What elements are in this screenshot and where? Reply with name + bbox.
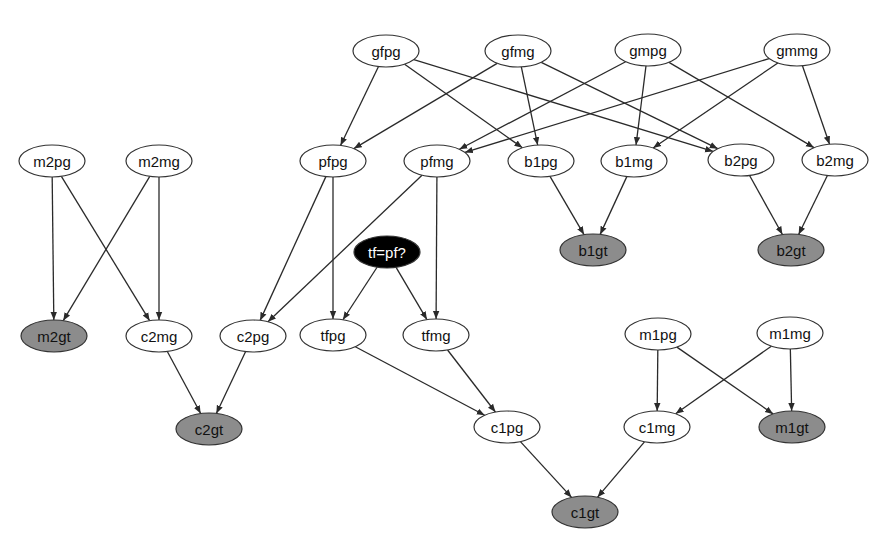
node-label: m1pg <box>639 326 677 343</box>
node-pfpg: pfpg <box>300 145 366 177</box>
node-label: gfmg <box>501 43 534 60</box>
node-label: c2gt <box>195 421 224 438</box>
node-b2pg: b2pg <box>708 144 774 176</box>
node-label: m1mg <box>769 325 811 342</box>
edge-m1pg-to-c1mg <box>657 350 658 411</box>
bayesian-network-diagram: gfpggfmggmpggmmgm2pgm2mgpfpgpfmgb1pgb1mg… <box>0 0 887 551</box>
edge-pfmg-to-tfmg <box>436 177 437 319</box>
edge-tfmg-to-c1pg <box>448 350 496 412</box>
node-label: pfmg <box>420 153 453 170</box>
node-label: tf=pf? <box>368 244 406 261</box>
node-label: m2mg <box>138 153 180 170</box>
node-label: c1mg <box>639 419 676 436</box>
node-c1pg: c1pg <box>474 411 540 443</box>
node-b2gt: b2gt <box>758 234 824 266</box>
node-c1gt: c1gt <box>552 496 618 528</box>
edge-gmmg-to-b2mg <box>802 66 829 144</box>
edge-tfpg-to-c1pg <box>355 347 484 415</box>
node-b1mg: b1mg <box>601 145 667 177</box>
edge-gmpg-to-pfmg <box>459 62 625 149</box>
node-label: gfpg <box>371 43 400 60</box>
node-label: c1pg <box>491 419 524 436</box>
node-label: c1gt <box>571 504 600 521</box>
edge-b2pg-to-b2gt <box>750 175 783 234</box>
node-tfpg: tfpg <box>300 319 366 351</box>
edge-tfpf-to-tfmg <box>396 267 427 319</box>
node-label: pfpg <box>318 153 347 170</box>
node-label: gmpg <box>629 42 667 59</box>
node-b1pg: b1pg <box>508 145 574 177</box>
edge-m2pg-to-m2gt <box>52 177 54 320</box>
node-m2mg: m2mg <box>126 145 192 177</box>
edge-c2pg-to-c2gt <box>216 352 245 414</box>
node-label: tfpg <box>320 327 345 344</box>
node-label: m1gt <box>775 419 809 436</box>
edge-c2mg-to-c2gt <box>167 351 200 413</box>
edge-c1mg-to-c1gt <box>598 442 645 497</box>
edge-m1pg-to-m1gt <box>677 347 773 414</box>
edge-tfpf-to-tfpg <box>343 267 377 319</box>
node-gmpg: gmpg <box>615 34 681 66</box>
edge-b1mg-to-b1gt <box>600 177 627 235</box>
node-label: b1gt <box>578 242 608 259</box>
node-tfpf: tf=pf? <box>354 236 420 268</box>
edge-gmmg-to-pfmg <box>465 59 769 153</box>
node-label: b1mg <box>615 153 653 170</box>
node-c1mg: c1mg <box>624 411 690 443</box>
node-gfpg: gfpg <box>353 35 419 67</box>
edge-b2mg-to-b2gt <box>799 176 828 235</box>
edge-m1mg-to-m1gt <box>790 349 791 411</box>
node-label: c2pg <box>237 328 270 345</box>
node-c2gt: c2gt <box>176 413 242 445</box>
edge-gfmg-to-pfpg <box>354 63 497 148</box>
edge-b1pg-to-b1gt <box>550 176 584 234</box>
node-m1mg: m1mg <box>757 317 823 349</box>
node-layer: gfpggfmggmpggmmgm2pgm2mgpfpgpfmgb1pgb1mg… <box>19 34 868 528</box>
node-m1pg: m1pg <box>625 318 691 350</box>
node-b1gt: b1gt <box>560 234 626 266</box>
node-label: b2gt <box>776 242 806 259</box>
node-tfmg: tfmg <box>403 319 469 351</box>
node-m1gt: m1gt <box>759 411 825 443</box>
node-c2pg: c2pg <box>220 320 286 352</box>
node-label: gmmg <box>776 42 818 59</box>
node-label: tfmg <box>421 327 450 344</box>
node-label: b1pg <box>524 153 557 170</box>
node-label: c2mg <box>141 328 178 345</box>
node-gmmg: gmmg <box>764 34 830 66</box>
node-m2pg: m2pg <box>19 145 85 177</box>
edge-layer <box>52 59 829 498</box>
node-label: m2gt <box>37 328 71 345</box>
edge-c1pg-to-c1gt <box>520 442 571 498</box>
node-label: m2pg <box>33 153 71 170</box>
edge-gfmg-to-b1pg <box>521 67 537 145</box>
edge-gfpg-to-pfpg <box>341 67 379 146</box>
node-label: b2mg <box>816 152 854 169</box>
node-c2mg: c2mg <box>126 320 192 352</box>
node-m2gt: m2gt <box>21 320 87 352</box>
edge-gmpg-to-b1mg <box>636 66 646 145</box>
node-label: b2pg <box>724 152 757 169</box>
edge-gfpg-to-b1pg <box>405 64 523 148</box>
node-pfmg: pfmg <box>404 145 470 177</box>
node-gfmg: gfmg <box>485 35 551 67</box>
node-b2mg: b2mg <box>802 144 868 176</box>
